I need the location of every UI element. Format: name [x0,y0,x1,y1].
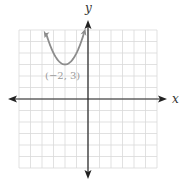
y-axis-label: y [84,1,92,15]
y-axis: y [84,1,92,179]
vertex-label: (−2, 3) [45,70,80,81]
coordinate-graph: x y (−2, 3) [0,0,183,183]
x-axis: x [8,92,179,106]
x-axis-label: x [172,92,179,106]
